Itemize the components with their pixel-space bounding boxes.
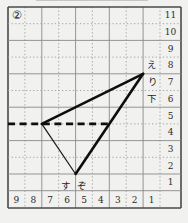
row-label-3: 3	[168, 144, 174, 153]
row-label-4: 4	[168, 128, 174, 137]
row-label-11: 11	[165, 11, 176, 20]
col-label-3: 3	[115, 195, 121, 204]
triangle-side-top	[42, 74, 143, 124]
problem-number-label: ②	[12, 10, 22, 22]
row-label-6: 6	[168, 94, 174, 103]
col-label-9: 9	[14, 195, 20, 204]
row-label-1: 1	[168, 178, 174, 187]
point-label-shita-kana: 下	[147, 94, 157, 104]
col-label-7: 7	[47, 195, 53, 204]
point-label-e-kana: え	[147, 61, 157, 71]
row-label-10: 10	[165, 28, 176, 37]
grid-figure-svg	[0, 0, 188, 223]
col-label-8: 8	[30, 195, 36, 204]
point-label-su-kana: す	[61, 181, 71, 191]
col-label-4: 4	[98, 195, 104, 204]
row-label-7: 7	[168, 78, 174, 87]
col-label-2: 2	[132, 195, 138, 204]
grid-horizontal-lines	[8, 7, 181, 208]
row-label-2: 2	[168, 161, 174, 170]
worksheet-grid-panel: ② 11 10 9 8 7 6 5 4 3 2 1 9 8 7 6 5 4 3 …	[0, 0, 188, 223]
col-label-1: 1	[149, 195, 155, 204]
row-label-5: 5	[168, 111, 174, 120]
point-label-ri-kana: り	[148, 77, 158, 87]
col-label-5: 5	[81, 195, 87, 204]
point-label-zo-kana: ぞ	[77, 181, 87, 191]
row-label-9: 9	[168, 44, 174, 53]
col-label-6: 6	[64, 195, 70, 204]
row-label-8: 8	[168, 61, 174, 70]
